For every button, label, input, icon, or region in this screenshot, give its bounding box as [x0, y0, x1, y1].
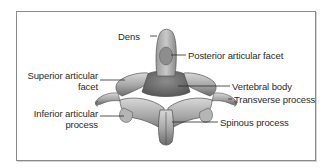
label-spinous-process: Spinous process	[220, 117, 289, 128]
label-superior-articular-facet-line2: facet	[22, 81, 98, 92]
label-posterior-articular-facet: Posterior articular facet	[188, 50, 283, 61]
dens	[156, 29, 176, 76]
label-superior-articular-facet-line1: Superior articular	[22, 70, 98, 81]
label-dens: Dens	[118, 31, 140, 42]
label-inferior-articular-process-line2: process	[22, 119, 98, 130]
posterior-articular-facet-shape	[160, 47, 173, 65]
label-vertebral-body: Vertebral body	[232, 81, 292, 92]
transverse-process-left	[95, 93, 120, 106]
label-transverse-process: Transverse process	[234, 94, 315, 105]
transverse-process-right	[212, 93, 237, 106]
label-inferior-articular-process-line1: Inferior articular	[22, 108, 98, 119]
